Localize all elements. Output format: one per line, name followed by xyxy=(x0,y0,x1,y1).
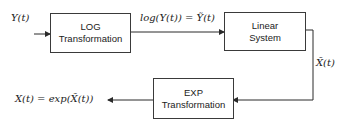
log-transformation-block: LOG Transformation xyxy=(50,13,131,53)
log-block-title: LOG xyxy=(80,21,100,33)
final-output-label: X(t) = exp(X̃(t)) xyxy=(15,93,93,104)
exp-transformation-block: EXP Transformation xyxy=(153,78,234,119)
linear-system-block: Linear System xyxy=(224,12,306,51)
log-block-subtitle: Transformation xyxy=(59,33,123,45)
linear-block-subtitle: System xyxy=(249,32,281,44)
input-label: Y(t) xyxy=(11,12,29,23)
exp-block-title: EXP xyxy=(184,87,203,99)
linear-block-title: Linear xyxy=(252,20,278,32)
exp-block-subtitle: Transformation xyxy=(162,99,226,111)
log-output-label: log(Y(t)) = Ỹ(t) xyxy=(140,12,215,23)
linear-output-label: X̃(t) xyxy=(316,57,335,68)
block-diagram: Y(t) LOG Transformation log(Y(t)) = Ỹ(t)… xyxy=(0,0,341,126)
